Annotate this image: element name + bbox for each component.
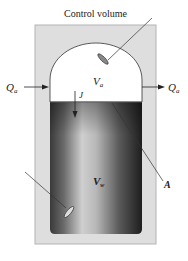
water-top-shade bbox=[50, 102, 142, 234]
area-label: A bbox=[163, 179, 171, 190]
outflow-label: Qa bbox=[168, 81, 180, 95]
inflow-label: Qa bbox=[6, 81, 18, 95]
control-volume-diagram: Control volume Qa Qa Va J Vw A bbox=[0, 0, 188, 261]
control-volume-label: Control volume bbox=[64, 8, 128, 19]
outflow-arrowhead-icon bbox=[158, 85, 165, 90]
